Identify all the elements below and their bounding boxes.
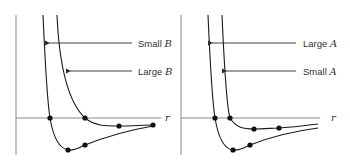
- data-point: [230, 147, 235, 152]
- right-axis-label-r: r: [331, 112, 337, 123]
- data-point: [150, 122, 155, 127]
- data-point: [82, 142, 87, 147]
- curve-small-b: [43, 15, 153, 150]
- data-point: [276, 125, 281, 130]
- left-panel: r Small B Large B: [16, 15, 172, 155]
- data-point: [65, 147, 70, 152]
- data-point: [212, 115, 217, 120]
- annotation-small-b: Small B: [138, 38, 172, 49]
- annotation-large-a: Large A: [303, 38, 337, 49]
- data-point: [116, 123, 121, 128]
- data-point: [227, 115, 232, 120]
- data-point: [47, 115, 52, 120]
- data-point: [247, 142, 252, 147]
- left-axis-label-r: r: [165, 112, 171, 123]
- data-point: [82, 115, 87, 120]
- data-point: [251, 126, 256, 131]
- annotation-large-b: Large B: [138, 66, 172, 77]
- curve-large-a: [208, 15, 318, 150]
- potential-curves-figure: r Small B Large B r: [0, 0, 350, 163]
- annotation-small-a: Small A: [303, 66, 337, 77]
- right-panel: r Large A Small A: [181, 15, 337, 155]
